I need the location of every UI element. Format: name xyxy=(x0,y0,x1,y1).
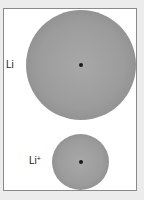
ion-nucleus-icon xyxy=(79,160,83,164)
ion-charge: + xyxy=(37,155,41,162)
lithium-ion-sphere xyxy=(52,134,109,190)
lithium-atom-sphere xyxy=(26,10,136,120)
ion-label: Li+ xyxy=(29,156,41,166)
diagram-frame: Li Li+ xyxy=(3,8,137,191)
ion-label-base: Li xyxy=(29,155,37,166)
atom-nucleus-icon xyxy=(79,63,83,67)
atom-label: Li xyxy=(6,60,14,70)
